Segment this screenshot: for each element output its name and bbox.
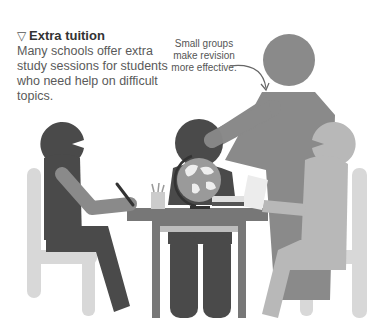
pencil-cup xyxy=(151,183,165,209)
books xyxy=(212,196,244,202)
arrow-icon xyxy=(230,65,266,88)
tutoring-illustration xyxy=(0,0,384,326)
